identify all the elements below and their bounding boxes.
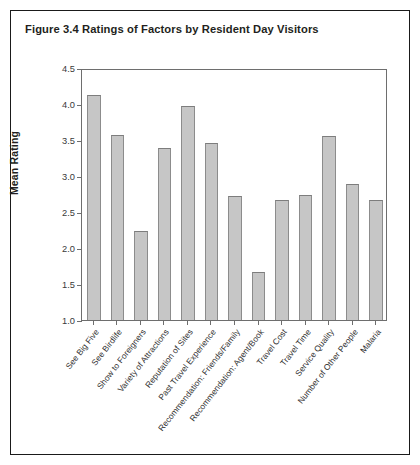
- y-axis-title: Mean Rating: [9, 131, 20, 195]
- x-tick-mark: [210, 321, 211, 325]
- bar: [228, 196, 242, 320]
- y-tick-label: 3.0: [41, 172, 75, 182]
- x-tick-mark: [93, 321, 94, 325]
- y-tick-label: 2.5: [41, 208, 75, 218]
- x-tick-mark: [140, 321, 141, 325]
- bar: [252, 272, 266, 320]
- bar: [205, 143, 219, 320]
- y-tick-label: 1.5: [41, 280, 75, 290]
- x-tick-label: Malaria: [358, 327, 383, 355]
- x-tick-mark: [116, 321, 117, 325]
- x-tick-mark: [258, 321, 259, 325]
- bar: [111, 135, 125, 320]
- x-tick-mark: [163, 321, 164, 325]
- bar: [87, 95, 101, 320]
- bar: [369, 200, 383, 320]
- y-tick-mark: [77, 321, 82, 322]
- x-tick-mark: [305, 321, 306, 325]
- y-tick-label: 2.0: [41, 244, 75, 254]
- x-tick-mark: [328, 321, 329, 325]
- plot-frame: [81, 69, 387, 321]
- bar: [134, 231, 148, 320]
- bar: [181, 106, 195, 320]
- x-tick-mark: [234, 321, 235, 325]
- y-tick-label: 4.5: [41, 64, 75, 74]
- bar: [158, 148, 172, 320]
- bar: [346, 184, 360, 320]
- x-tick-mark: [352, 321, 353, 325]
- x-tick-mark: [187, 321, 188, 325]
- bar: [275, 200, 289, 320]
- x-tick-mark: [375, 321, 376, 325]
- y-tick-label: 3.5: [41, 136, 75, 146]
- y-tick-label: 1.0: [41, 316, 75, 326]
- y-tick-label: 4.0: [41, 100, 75, 110]
- bar: [322, 136, 336, 320]
- figure-container: Figure 3.4 Ratings of Factors by Residen…: [10, 10, 410, 455]
- chart-plot-area: Mean Rating 1.01.52.02.53.03.54.04.5 See…: [11, 11, 411, 456]
- bar: [299, 195, 313, 320]
- x-tick-mark: [281, 321, 282, 325]
